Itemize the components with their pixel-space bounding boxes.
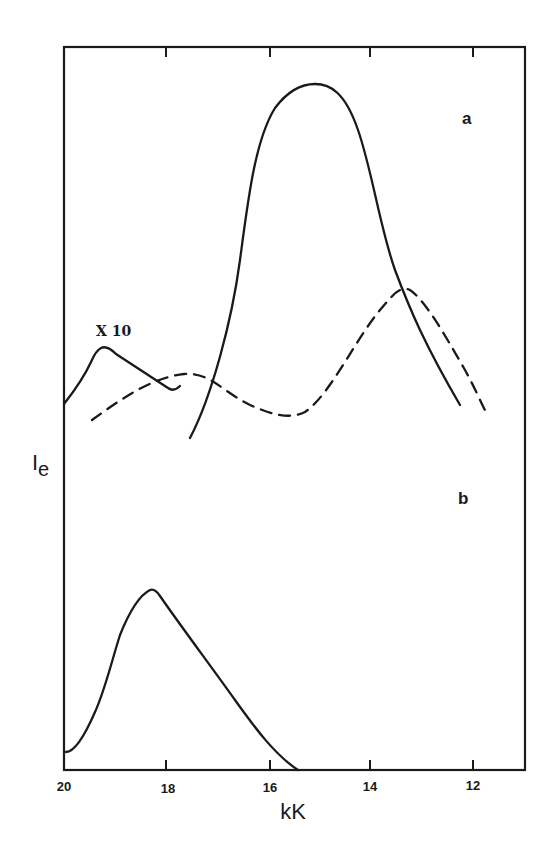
x-axis-title: kK	[280, 799, 306, 824]
spectrum-chart: 20 18 16 14 12 kK I e a b X 10	[0, 0, 554, 851]
y-axis-title: I e	[32, 450, 49, 480]
panel-label-b: b	[458, 489, 468, 508]
y-axis-title-subscript: e	[38, 458, 49, 480]
plot-frame	[64, 47, 525, 770]
scale-annotation-x10: X 10	[96, 323, 131, 339]
curve-a-dashed	[92, 289, 487, 420]
x-ticks-top	[166, 47, 473, 57]
panel-label-a: a	[462, 109, 472, 128]
curve-a-x10-solid	[64, 347, 180, 404]
x-tick-label-18: 18	[161, 781, 175, 796]
x-ticks-bottom	[166, 760, 473, 770]
curve-b-solid	[66, 590, 298, 770]
x-tick-label-20: 20	[57, 779, 71, 794]
x-tick-label-14: 14	[363, 779, 378, 794]
curve-a-main-solid	[190, 84, 460, 438]
x-tick-label-16: 16	[263, 780, 277, 795]
x-tick-label-12: 12	[466, 778, 480, 793]
